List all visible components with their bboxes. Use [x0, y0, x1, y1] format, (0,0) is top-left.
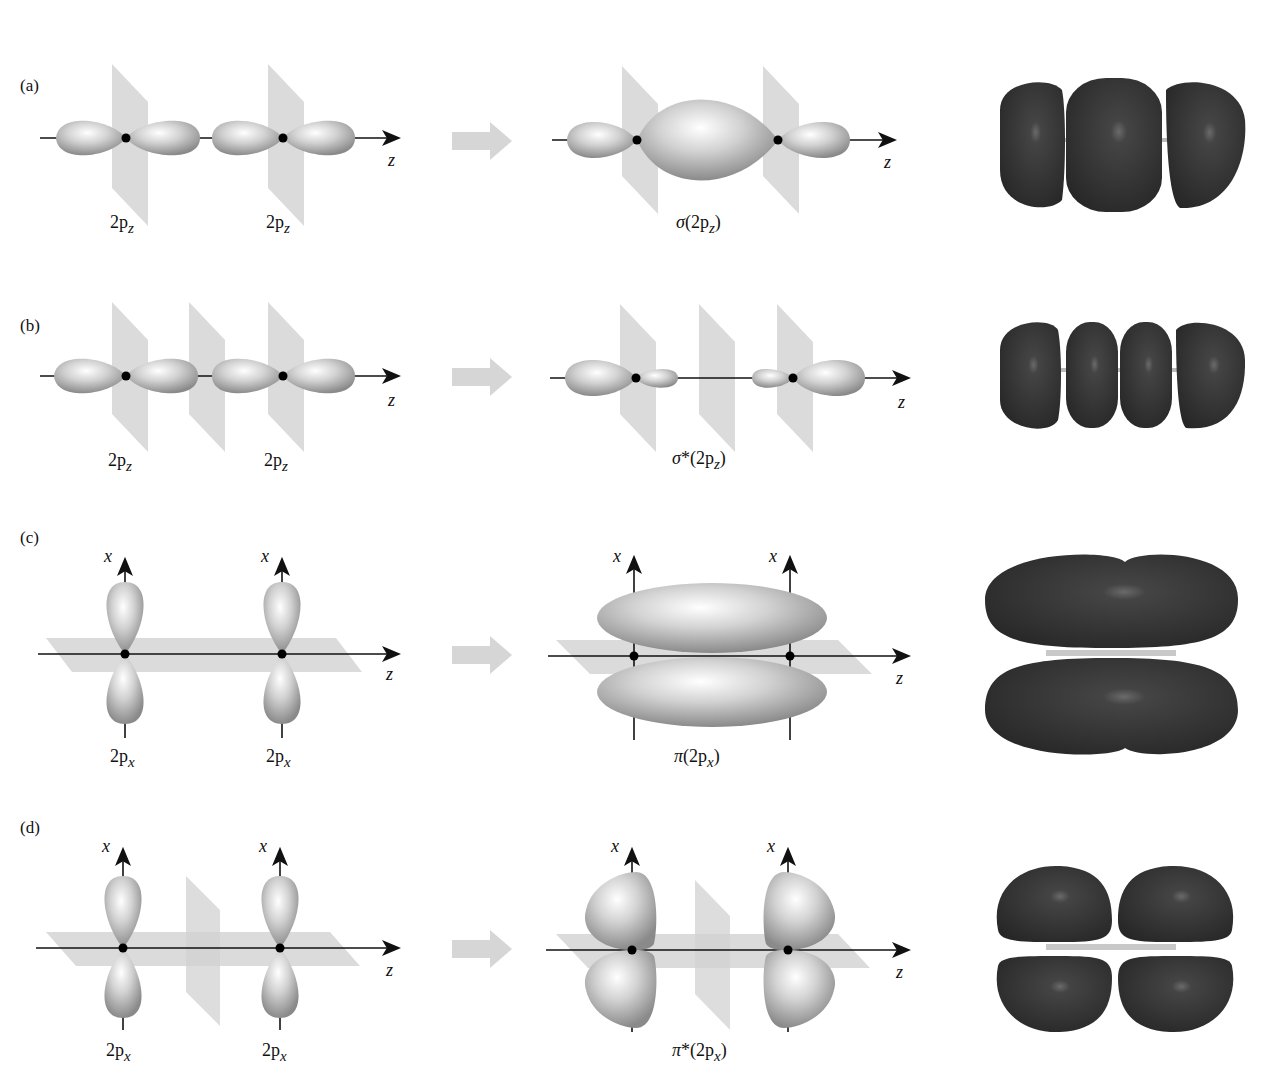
figure-canvas [0, 0, 1281, 1088]
row-c-left [38, 560, 398, 738]
mo-label-pi: π(2px) [674, 746, 720, 771]
row-c-middle [548, 558, 908, 740]
ao-label: 2pz [108, 450, 132, 475]
ao-label: 2pz [110, 212, 134, 237]
ao-label: 2px [110, 746, 135, 771]
panel-label-d: (d) [20, 818, 40, 838]
mo-label-sigma: σ(2pz) [676, 212, 721, 237]
ao-label: 2px [266, 746, 291, 771]
z-axis-label: z [898, 392, 905, 413]
transform-arrow-icon [452, 930, 512, 968]
x-axis-label: x [259, 836, 267, 857]
nucleus [122, 134, 131, 143]
x-axis-label: x [769, 546, 777, 567]
z-axis-label: z [896, 668, 903, 689]
transform-arrow-icon [452, 358, 512, 396]
ao-label: 2px [106, 1040, 131, 1065]
z-axis-label: z [388, 390, 395, 411]
panel-label-b: (b) [20, 316, 40, 336]
z-axis-label: z [388, 150, 395, 171]
row-b-left [40, 302, 398, 452]
z-axis-label: z [386, 960, 393, 981]
ao-label: 2px [262, 1040, 287, 1065]
transform-arrow-icon [452, 636, 512, 674]
panel-label-a: (a) [20, 76, 39, 96]
z-axis-label: z [386, 664, 393, 685]
row-b-middle [550, 304, 908, 452]
mo-label-pi-star: π*(2px) [672, 1040, 727, 1065]
x-axis-label: x [767, 836, 775, 857]
x-axis-label: x [611, 836, 619, 857]
x-axis-label: x [613, 546, 621, 567]
row-d-middle [546, 850, 908, 1032]
row-b-isosurface [1000, 322, 1245, 429]
ao-label: 2pz [266, 212, 290, 237]
x-axis-label: x [104, 546, 112, 567]
row-c-isosurface [985, 555, 1238, 755]
panel-label-c: (c) [20, 528, 39, 548]
ao-label: 2pz [264, 450, 288, 475]
z-axis-label: z [884, 152, 891, 173]
nucleus [279, 134, 288, 143]
transform-arrow-icon [452, 122, 512, 160]
x-axis-label: x [261, 546, 269, 567]
row-a-left [40, 64, 398, 226]
row-a-middle [552, 66, 894, 214]
z-axis-label: z [896, 962, 903, 983]
x-axis-label: x [102, 836, 110, 857]
mo-label-sigma-star: σ*(2pz) [672, 448, 726, 473]
row-d-left [36, 850, 398, 1030]
row-a-isosurface [1000, 78, 1245, 212]
row-d-isosurface [997, 866, 1234, 1032]
